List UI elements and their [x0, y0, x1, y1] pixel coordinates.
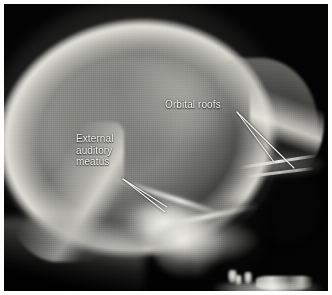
skull-xray-image: Orbital roofs External auditory meatus — [4, 4, 328, 291]
annotation-label-orbital-roofs: Orbital roofs — [165, 99, 221, 111]
leader-line-orbital-roof-1 — [237, 112, 274, 162]
leader-line-eam-1 — [123, 179, 167, 207]
radiograph-figure: Orbital roofs External auditory meatus — [0, 0, 332, 295]
leader-lines — [4, 4, 328, 291]
leader-line-eam-2 — [123, 179, 165, 212]
annotation-label-external-auditory-meatus: External auditory meatus — [76, 133, 114, 168]
annotation-layer: Orbital roofs External auditory meatus — [4, 4, 328, 291]
leader-line-orbital-roof-2 — [237, 112, 294, 168]
